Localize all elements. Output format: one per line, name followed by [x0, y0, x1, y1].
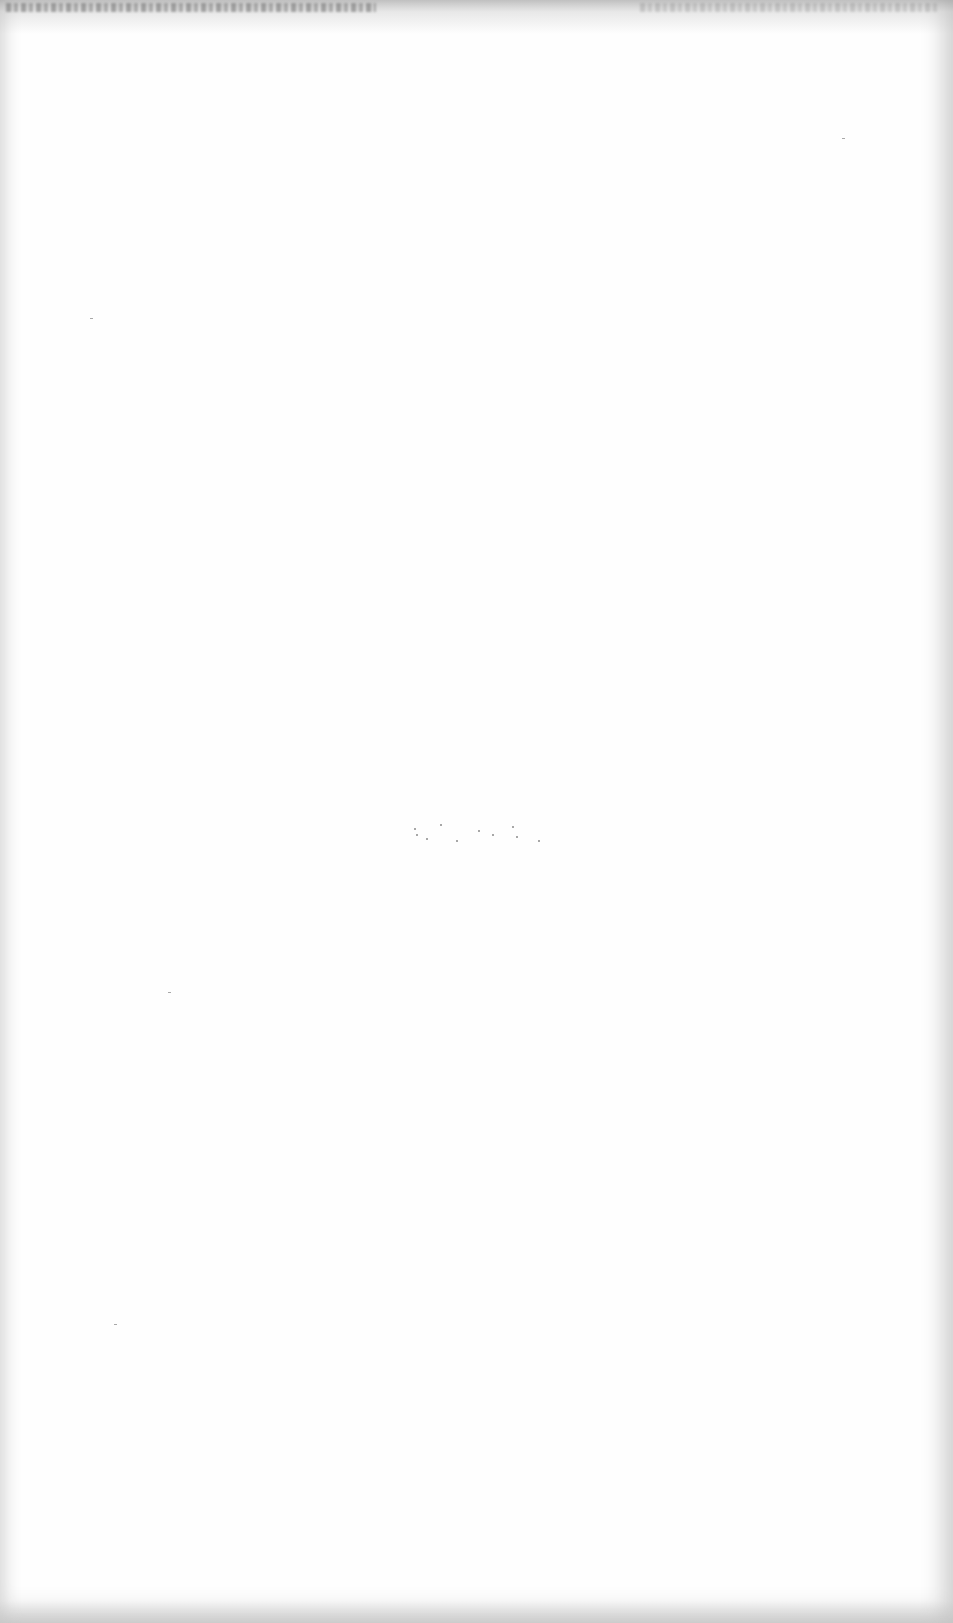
illegible-bleed-text: [6, 3, 376, 12]
bottom-edge-shadow: [0, 1601, 953, 1623]
illegible-bleed-text: [640, 3, 940, 12]
scan-speck: [114, 1324, 117, 1325]
top-edge-bleed-through: [0, 0, 953, 34]
scan-speck: [842, 138, 845, 139]
blank-scanned-page: [0, 0, 953, 1623]
scan-speck: [90, 318, 93, 319]
scan-speck-cluster: [412, 822, 552, 844]
scan-speck: [168, 992, 171, 993]
